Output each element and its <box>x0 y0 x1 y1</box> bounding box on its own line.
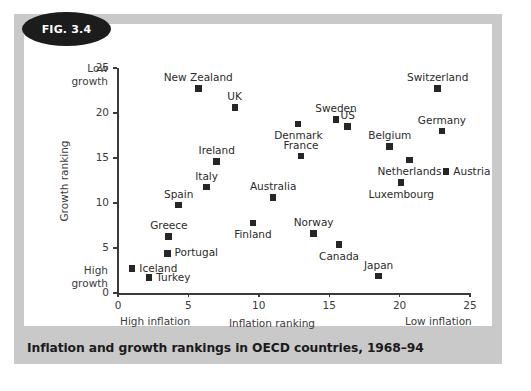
x-tick-mark <box>188 293 190 297</box>
note-high-growth-line1: High <box>60 264 108 277</box>
data-point-label: Austria <box>453 165 490 177</box>
data-point[interactable] <box>270 194 277 201</box>
data-point[interactable] <box>344 123 351 130</box>
data-point-label: Norway <box>294 216 334 228</box>
x-axis-title: Inflation ranking <box>229 317 315 329</box>
data-point[interactable] <box>164 250 171 257</box>
note-low-inflation: Low inflation <box>405 315 472 328</box>
data-point[interactable] <box>195 85 202 92</box>
y-tick-label: 0 <box>83 286 109 298</box>
data-point[interactable] <box>129 265 136 272</box>
data-point-label: US <box>341 109 355 121</box>
data-point-label: Ireland <box>199 144 235 156</box>
data-point-label: Belgium <box>368 129 411 141</box>
y-tick-mark <box>113 247 117 249</box>
data-point-label: Canada <box>319 250 359 262</box>
data-point[interactable] <box>203 184 210 191</box>
y-tick-label: 10 <box>83 196 109 208</box>
x-tick-label: 25 <box>455 299 485 311</box>
data-point[interactable] <box>386 143 393 150</box>
data-point-label: Greece <box>150 219 187 231</box>
x-tick-label: 10 <box>244 299 274 311</box>
data-point-label: France <box>284 139 319 151</box>
data-point-label: Switzerland <box>407 71 468 83</box>
data-point[interactable] <box>434 85 441 92</box>
x-tick-label: 5 <box>173 299 203 311</box>
data-point-label: Germany <box>418 114 466 126</box>
y-tick-label: 15 <box>83 151 109 163</box>
y-axis-title: Growth ranking <box>58 111 70 251</box>
data-point[interactable] <box>406 157 413 164</box>
figure-root: FIG. 3.4 Inflation ranking Growth rankin… <box>0 0 531 391</box>
data-point-label: Turkey <box>156 271 190 283</box>
data-point[interactable] <box>165 233 172 240</box>
data-point[interactable] <box>250 220 257 227</box>
x-tick-mark <box>258 293 260 297</box>
y-tick-mark <box>113 67 117 69</box>
data-point[interactable] <box>375 273 382 280</box>
x-tick-mark <box>117 293 119 297</box>
data-point[interactable] <box>336 241 343 248</box>
y-tick-label: 5 <box>83 241 109 253</box>
data-point[interactable] <box>443 168 450 175</box>
data-point-label: Luxembourg <box>369 188 434 200</box>
data-point-label: Italy <box>195 170 218 182</box>
data-point-label: Netherlands <box>377 165 441 177</box>
figure-caption-banner: Inflation and growth rankings in OECD co… <box>14 332 502 364</box>
data-point[interactable] <box>146 274 153 281</box>
y-tick-label: 25 <box>83 61 109 73</box>
figure-number-label: FIG. 3.4 <box>42 23 92 36</box>
data-point[interactable] <box>295 121 302 128</box>
data-point[interactable] <box>298 153 305 160</box>
x-tick-mark <box>399 293 401 297</box>
note-high-inflation: High inflation <box>120 315 190 328</box>
data-point-label: New Zealand <box>164 71 233 83</box>
data-point[interactable] <box>398 179 405 186</box>
data-point-label: Japan <box>364 259 393 271</box>
x-tick-label: 15 <box>314 299 344 311</box>
y-tick-label: 20 <box>83 106 109 118</box>
data-point[interactable] <box>439 128 446 135</box>
data-point[interactable] <box>175 202 182 209</box>
note-low-growth-line2: growth <box>60 75 108 88</box>
data-point[interactable] <box>333 116 340 123</box>
data-point-label: Finland <box>234 228 272 240</box>
data-point-label: Spain <box>164 188 193 200</box>
data-point[interactable] <box>213 158 220 165</box>
figure-caption: Inflation and growth rankings in OECD co… <box>14 341 424 355</box>
data-point-label: UK <box>227 90 242 102</box>
y-tick-mark <box>113 202 117 204</box>
x-tick-mark <box>469 293 471 297</box>
figure-number-badge: FIG. 3.4 <box>22 12 111 46</box>
y-axis-line <box>117 68 119 294</box>
data-point[interactable] <box>232 104 239 111</box>
x-tick-mark <box>329 293 331 297</box>
data-point-label: Portugal <box>175 246 219 258</box>
data-point-label: Australia <box>250 180 296 192</box>
x-tick-label: 0 <box>103 299 133 311</box>
data-point[interactable] <box>310 230 317 237</box>
y-tick-mark <box>113 157 117 159</box>
x-axis-line <box>117 293 471 295</box>
x-tick-label: 20 <box>385 299 415 311</box>
y-tick-mark <box>113 112 117 114</box>
